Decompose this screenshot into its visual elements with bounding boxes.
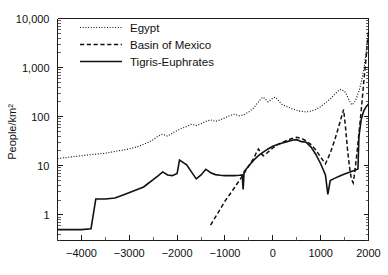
- y-tick-label: 1: [43, 209, 49, 221]
- x-axis-tick-labels: −4000−3000−2000−1000010002000: [66, 247, 381, 259]
- series-basin-of-mexico: [211, 32, 369, 225]
- x-tick-label: −1000: [210, 247, 241, 259]
- x-tick-label: −3000: [114, 247, 145, 259]
- x-tick-label: 0: [270, 247, 276, 259]
- y-tick-label: 10: [37, 160, 49, 172]
- legend-label-basin-of-mexico: Basin of Mexico: [130, 39, 211, 51]
- series-egypt: [58, 29, 369, 158]
- y-tick-label: 1,000: [22, 62, 50, 74]
- legend-label-tigris-euphrates: Tigris-Euphrates: [130, 56, 214, 68]
- legend-label-egypt: Egypt: [130, 22, 160, 34]
- x-tick-label: −2000: [162, 247, 193, 259]
- x-tick-label: 1000: [308, 247, 332, 259]
- chart-legend: Egypt Basin of Mexico Tigris-Euphrates: [80, 22, 214, 68]
- x-axis-ticks: [58, 235, 369, 241]
- y-axis-tick-labels: 1101001,00010,000: [16, 13, 50, 221]
- y-axis-ticks: [58, 19, 369, 241]
- x-tick-label: 2000: [356, 247, 380, 259]
- population-density-line-chart: 1101001,00010,000 −4000−3000−2000−100001…: [0, 0, 388, 275]
- y-axis-title: People/km²: [6, 104, 18, 160]
- y-tick-label: 10,000: [16, 13, 50, 25]
- series-tigris-euphrates: [58, 104, 369, 229]
- y-tick-label: 100: [31, 111, 49, 123]
- x-tick-label: −4000: [66, 247, 97, 259]
- plot-frame: [58, 19, 369, 241]
- chart-container: 1101001,00010,000 −4000−3000−2000−100001…: [0, 0, 388, 275]
